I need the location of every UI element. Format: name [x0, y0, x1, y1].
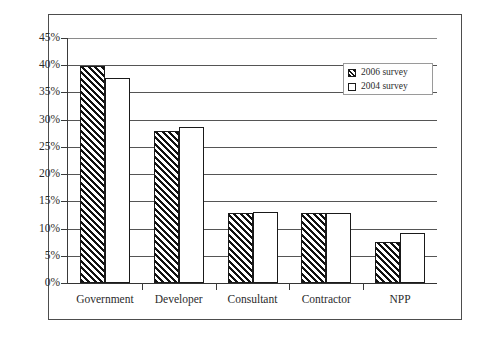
- bar-government-2006: [80, 66, 105, 283]
- legend-label: 2004 survey: [361, 82, 408, 92]
- x-axis-labels: GovernmentDeveloperConsultantContractorN…: [48, 293, 462, 315]
- y-tick-40%: [61, 65, 68, 66]
- x-tick: [216, 283, 217, 290]
- bar-npp-2004: [400, 233, 425, 283]
- y-tick-45%: [61, 38, 68, 39]
- y-axis-tick-label: 30%: [14, 114, 60, 126]
- y-axis-tick-label: 0%: [14, 277, 60, 289]
- bar-developer-2006: [154, 131, 179, 283]
- bar-consultant-2004: [253, 212, 278, 283]
- x-tick: [289, 283, 290, 290]
- bar-consultant-2006: [228, 213, 253, 283]
- y-tick-30%: [61, 120, 68, 121]
- y-tick-20%: [61, 174, 68, 175]
- y-axis-tick-label: 35%: [14, 86, 60, 98]
- y-tick-10%: [61, 229, 68, 230]
- y-axis-tick-label: 25%: [14, 141, 60, 153]
- hatched-swatch: [348, 69, 356, 77]
- x-tick: [142, 283, 143, 290]
- bar-developer-2004: [179, 127, 204, 283]
- x-tick: [363, 283, 364, 290]
- x-axis-category-label: NPP: [355, 293, 445, 307]
- y-axis-labels: 0%5%10%15%20%25%30%35%40%45%: [12, 0, 60, 339]
- gridline-0%: [68, 283, 437, 284]
- y-tick-0%: [61, 283, 68, 284]
- bar-npp-2006: [375, 242, 400, 283]
- chart-legend: 2006 survey2004 survey: [343, 63, 433, 95]
- y-tick-35%: [61, 92, 68, 93]
- y-axis-tick-label: 45%: [14, 32, 60, 44]
- legend-item: 2004 survey: [348, 81, 428, 93]
- y-tick-5%: [61, 256, 68, 257]
- y-axis-tick-label: 20%: [14, 168, 60, 180]
- bar-contractor-2004: [326, 213, 351, 283]
- bar-contractor-2006: [301, 213, 326, 283]
- y-tick-15%: [61, 201, 68, 202]
- y-tick-25%: [61, 147, 68, 148]
- bar-chart-figure: 0%5%10%15%20%25%30%35%40%45% GovernmentD…: [0, 0, 486, 339]
- legend-item: 2006 survey: [348, 67, 428, 79]
- white-swatch: [348, 83, 356, 91]
- bar-government-2004: [105, 78, 130, 283]
- y-axis-tick-label: 40%: [14, 59, 60, 71]
- legend-label: 2006 survey: [361, 68, 408, 78]
- gridline-45%: [68, 38, 437, 39]
- y-axis-tick-label: 10%: [14, 223, 60, 235]
- y-axis-tick-label: 15%: [14, 195, 60, 207]
- y-axis-tick-label: 5%: [14, 250, 60, 262]
